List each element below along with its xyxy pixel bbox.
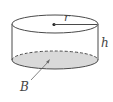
radius-label: r (64, 11, 70, 24)
base-label: B (19, 80, 29, 94)
height-label: h (101, 36, 109, 50)
cylinder-diagram: r h B (0, 0, 113, 102)
